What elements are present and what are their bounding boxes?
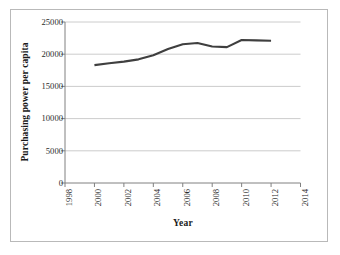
x-axis-title: Year [65, 218, 301, 228]
x-axis-tick-labels: 199820002002200420062008201020122014 [0, 0, 340, 255]
